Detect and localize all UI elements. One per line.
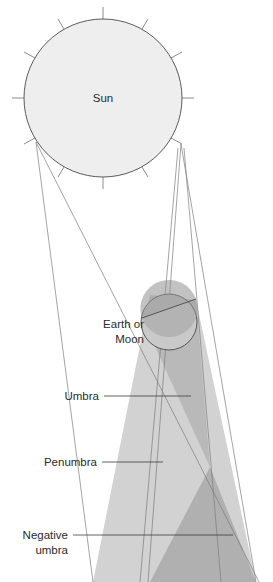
eclipse-diagram: Sun Earth or Moon Umb	[0, 0, 273, 582]
earth-moon-label-line1: Earth or	[103, 318, 144, 330]
sun-ray-tick	[58, 19, 64, 29]
sun-ray-tick	[171, 52, 182, 58]
sun-label: Sun	[93, 92, 113, 104]
umbra-label: Umbra	[64, 390, 99, 402]
earth-moon-label-line2: Moon	[115, 333, 144, 345]
negative-umbra-label-line1: Negative	[23, 529, 68, 541]
sun-ray-tick	[171, 138, 182, 144]
eclipse-geometry-svg: Sun Earth or Moon Umb	[0, 0, 273, 582]
sun-ray-tick	[142, 167, 148, 177]
negative-umbra-label-line2: umbra	[35, 544, 68, 556]
earth-moon-callout: Earth or Moon	[103, 318, 144, 345]
sun-ray-tick	[58, 167, 64, 177]
sun-ray-tick	[142, 19, 148, 29]
sun-ray-tick	[24, 52, 35, 58]
sun-ray-tick	[24, 138, 35, 144]
tangent-ray-outer-left	[36, 142, 93, 582]
penumbra-label: Penumbra	[44, 456, 98, 468]
